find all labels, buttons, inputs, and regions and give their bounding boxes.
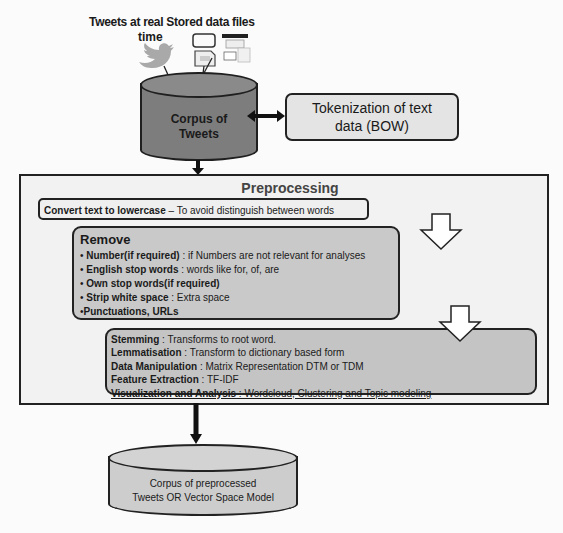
- step-desc: : Matrix Representation DTM or TDM: [197, 361, 364, 372]
- lowercase-step-desc: – To avoid distinguish between words: [166, 205, 334, 216]
- remove-item: • Own stop words(if required): [80, 277, 392, 291]
- remove-item-desc: : if Numbers are not relevant for analys…: [180, 250, 366, 261]
- remove-item: •Punctuations, URLs: [80, 305, 392, 319]
- step-item: Lemmatisation : Transform to dictionary …: [111, 346, 531, 359]
- remove-title: Remove: [80, 231, 392, 248]
- lowercase-step-title: Convert text to lowercase: [44, 205, 166, 216]
- tokenization-box: Tokenization of text data (BOW): [285, 93, 459, 141]
- step-item: Visualization and Analysis : Wordcloud, …: [111, 387, 531, 400]
- step-desc: : Wordcloud, Clustering and Topic modeli…: [236, 388, 431, 399]
- cylinder-top: [140, 72, 258, 98]
- output-corpus-line1: Corpus of preprocessed: [108, 477, 298, 491]
- remove-item-title: Punctuations, URLs: [84, 306, 179, 317]
- remove-item-desc: : words like for, of, are: [179, 264, 280, 275]
- step-title: Lemmatisation: [111, 347, 182, 358]
- output-corpus-cylinder: Corpus of preprocessed Tweets OR Vector …: [108, 444, 298, 526]
- remove-item-title: Own stop words(if required): [86, 278, 219, 289]
- hollow-down-arrow-icon: [438, 305, 482, 343]
- step-desc: : Transforms to root word.: [159, 334, 276, 345]
- remove-item: • Strip white space : Extra space: [80, 291, 392, 305]
- cylinder-top: [108, 444, 298, 472]
- down-arrow-icon: [190, 403, 202, 445]
- double-arrow-icon: [247, 110, 285, 122]
- corpus-label-line1: Corpus of: [140, 112, 258, 127]
- remove-step: Remove • Number(if required) : if Number…: [72, 226, 400, 320]
- step-item: Feature Extraction : TF-IDF: [111, 373, 531, 386]
- step-desc: : Transform to dictionary based form: [182, 347, 345, 358]
- remove-item-title: English stop words: [86, 264, 178, 275]
- remove-item-title: Number(if required): [86, 250, 179, 261]
- step-title: Stemming: [111, 334, 159, 345]
- remove-item-desc: : Extra space: [169, 292, 230, 303]
- tokenization-line1: Tokenization of text: [312, 99, 432, 117]
- tokenization-line2: data (BOW): [312, 117, 432, 135]
- step-item: Data Manipulation : Matrix Representatio…: [111, 360, 531, 373]
- step-desc: : TF-IDF: [199, 374, 239, 385]
- output-corpus-line2: Tweets OR Vector Space Model: [108, 491, 298, 505]
- corpus-label: Corpus of Tweets: [140, 112, 258, 142]
- corpus-of-tweets-cylinder: Corpus of Tweets: [140, 72, 258, 168]
- step-title: Feature Extraction: [111, 374, 199, 385]
- lowercase-step: Convert text to lowercase – To avoid dis…: [38, 198, 369, 220]
- remove-item: • English stop words : words like for, o…: [80, 263, 392, 277]
- step-title: Visualization and Analysis: [111, 388, 236, 399]
- step-title: Data Manipulation: [111, 361, 197, 372]
- corpus-label-line2: Tweets: [140, 127, 258, 142]
- hollow-down-arrow-icon: [419, 213, 463, 251]
- remove-item: • Number(if required) : if Numbers are n…: [80, 249, 392, 263]
- output-corpus-label: Corpus of preprocessed Tweets OR Vector …: [108, 477, 298, 505]
- preprocessing-title: Preprocessing: [190, 180, 390, 196]
- remove-item-title: Strip white space: [86, 292, 168, 303]
